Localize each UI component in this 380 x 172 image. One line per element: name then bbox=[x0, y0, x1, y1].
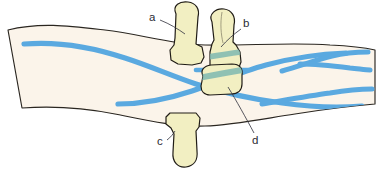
label-a: a bbox=[149, 11, 156, 23]
bone-c-path bbox=[166, 113, 200, 167]
bone-fragment-d bbox=[198, 64, 248, 95]
label-c: c bbox=[157, 135, 163, 147]
bone-a-path bbox=[170, 2, 204, 65]
label-d: d bbox=[252, 134, 258, 146]
label-b: b bbox=[243, 17, 249, 29]
upper-bone-segment-a bbox=[170, 2, 204, 65]
figure-container: a b c d bbox=[0, 0, 380, 172]
lower-bone-segment-c bbox=[166, 113, 200, 167]
anatomy-diagram-svg: a b c d bbox=[0, 0, 380, 172]
